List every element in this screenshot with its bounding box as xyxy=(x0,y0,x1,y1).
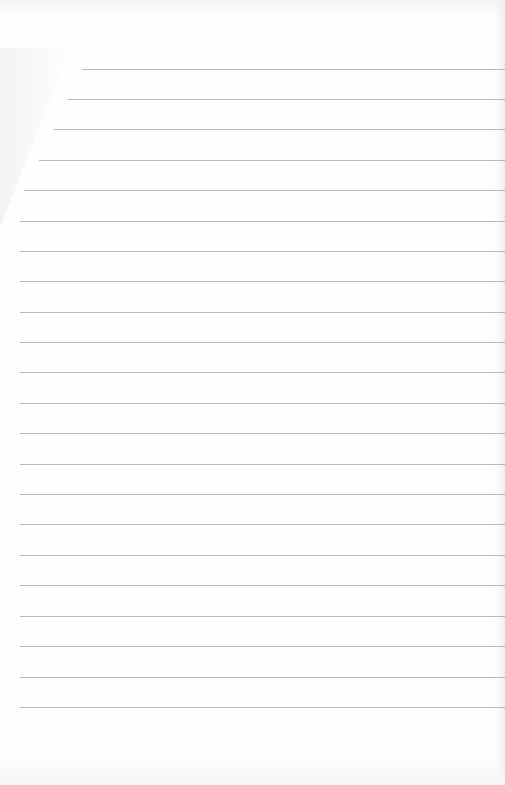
ruled-line xyxy=(20,433,505,434)
ruled-line xyxy=(20,281,505,282)
ruled-line xyxy=(20,251,505,252)
ruled-line xyxy=(20,616,505,617)
bottom-shadow xyxy=(0,755,505,785)
ruled-line xyxy=(20,707,505,708)
right-edge-shadow xyxy=(495,0,505,785)
ruled-line xyxy=(20,677,505,678)
ruled-line xyxy=(20,221,505,222)
left-fold-shadow xyxy=(0,48,70,228)
ruled-line xyxy=(39,160,505,161)
lined-paper-sheet xyxy=(0,0,505,785)
ruled-line xyxy=(20,646,505,647)
ruled-line xyxy=(20,555,505,556)
ruled-line xyxy=(20,464,505,465)
ruled-line xyxy=(54,129,505,130)
ruled-line xyxy=(82,69,505,70)
ruled-line xyxy=(20,403,505,404)
ruled-line xyxy=(20,372,505,373)
ruled-line xyxy=(20,312,505,313)
ruled-line xyxy=(20,524,505,525)
top-shadow xyxy=(0,0,505,18)
ruled-line xyxy=(24,190,505,191)
ruled-line xyxy=(20,585,505,586)
ruled-line xyxy=(20,494,505,495)
ruled-line xyxy=(20,342,505,343)
ruled-line xyxy=(68,99,505,100)
